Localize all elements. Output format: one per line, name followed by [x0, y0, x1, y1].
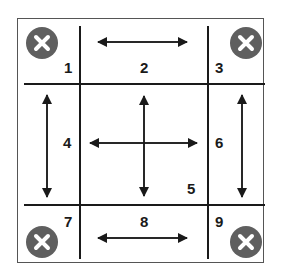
cell-number-3: 3	[215, 60, 223, 75]
cell-number-1: 1	[64, 60, 72, 75]
cell-number-7: 7	[64, 214, 72, 229]
resize-grid-diagram: 1 2 3 4 5 6 7 8 9	[0, 0, 285, 279]
close-icon[interactable]	[26, 27, 58, 59]
cell-number-2: 2	[140, 60, 148, 75]
cell-number-9: 9	[215, 214, 223, 229]
cell-number-6: 6	[215, 135, 223, 150]
four-way-arrow-icon-cell-5	[90, 96, 197, 196]
close-icon[interactable]	[26, 226, 58, 258]
cell-number-8: 8	[140, 214, 148, 229]
cell-number-4: 4	[63, 135, 71, 150]
close-icon[interactable]	[230, 226, 262, 258]
cell-number-5: 5	[187, 181, 195, 196]
close-icon[interactable]	[230, 27, 262, 59]
